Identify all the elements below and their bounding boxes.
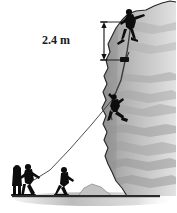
dimension-arrow-down (101, 54, 106, 60)
dimension-label: 2.4 m (22, 33, 70, 47)
dimension-arrow-up (101, 22, 106, 28)
cliff-rock-face (100, 1, 176, 196)
belayer-pulling-rope (19, 164, 40, 196)
base-boulder (78, 184, 112, 196)
person-with-backpack (11, 165, 23, 196)
figure-canvas (0, 0, 177, 213)
climbing-figure: 2.4 m (0, 0, 177, 213)
ground-line (12, 195, 160, 197)
person-walking-right (54, 167, 74, 196)
